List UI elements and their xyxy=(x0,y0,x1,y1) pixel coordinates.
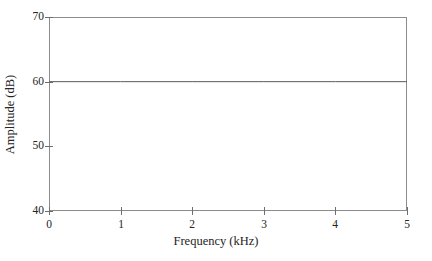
x-tick-label: 5 xyxy=(404,219,410,231)
y-tick-label: 60 xyxy=(20,76,44,88)
x-tick-label: 2 xyxy=(189,219,195,231)
plot-canvas xyxy=(0,0,432,261)
y-axis-title: Amplitude (dB) xyxy=(4,74,19,154)
y-axis-title-wrapper: Amplitude (dB) xyxy=(0,0,22,228)
y-axis-tick-marks xyxy=(45,18,53,212)
y-tick-label: 40 xyxy=(20,205,44,217)
x-tick-label: 3 xyxy=(261,219,267,231)
x-tick-label: 4 xyxy=(332,219,338,231)
y-tick-label: 70 xyxy=(20,11,44,23)
x-tick-label: 1 xyxy=(118,219,124,231)
x-tick-label: 0 xyxy=(46,219,52,231)
x-axis-tick-marks xyxy=(50,207,408,215)
chart-figure: 40506070 012345 Amplitude (dB) Frequency… xyxy=(0,0,432,261)
x-axis-title: Frequency (kHz) xyxy=(0,234,432,249)
y-tick-label: 50 xyxy=(20,140,44,152)
